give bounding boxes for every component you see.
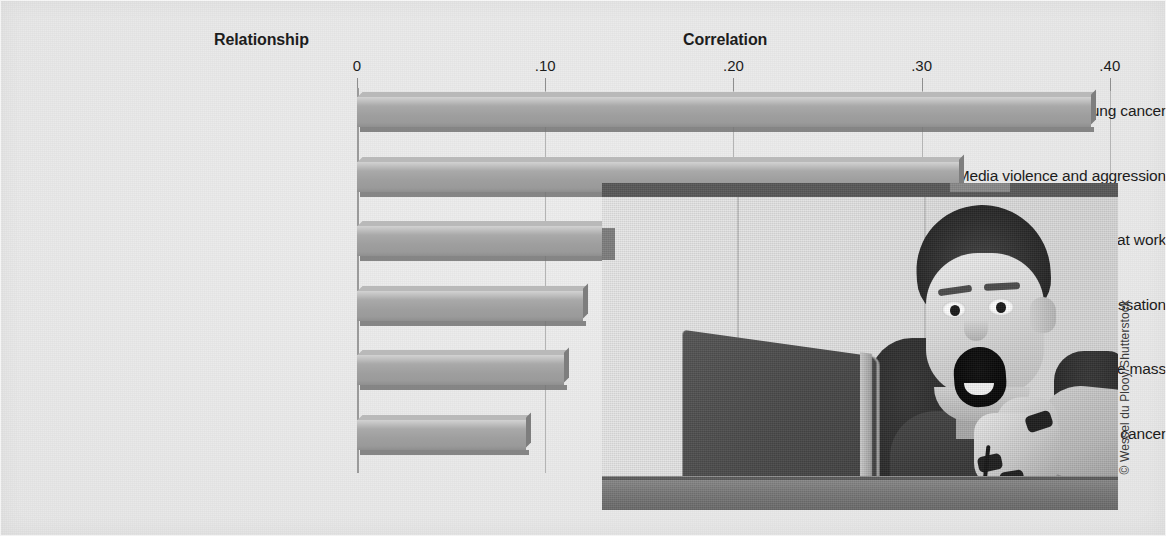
photo-wall-notch [602, 228, 615, 260]
bar-side-face [526, 412, 531, 447]
bar-shadow [360, 321, 586, 326]
photo-boy-playing-video-game [602, 183, 1118, 510]
bar [357, 420, 526, 450]
bar [357, 226, 602, 256]
x-tick-label-1: .10 [535, 57, 556, 74]
desk-surface [602, 476, 1118, 510]
bar-face [357, 291, 583, 321]
photo-credit: © Wessel du Plooy/Shutterstock [1118, 300, 1132, 474]
bar-top-face [358, 157, 965, 162]
correlation-bar-chart-figure: Relationship Correlation 0.10.20.30.40 S… [0, 0, 1166, 536]
bar [357, 97, 1091, 127]
photo-upper-band [602, 183, 1118, 197]
x-tick-label-4: .40 [1099, 57, 1120, 74]
x-tick-mark-3 [922, 78, 923, 91]
x-tick-label-2: .20 [723, 57, 744, 74]
x-tick-mark-4 [1110, 78, 1111, 91]
bar-top-face [358, 350, 570, 355]
boy-figure [878, 201, 1118, 510]
bar-side-face [564, 348, 569, 383]
bar-shadow [360, 127, 1094, 132]
x-tick-label-0: 0 [353, 57, 361, 74]
boy-pupil-right [996, 302, 1006, 313]
bar-shadow [360, 385, 567, 390]
bar-face [357, 97, 1091, 127]
bar-side-face [1091, 90, 1096, 125]
x-tick-mark-1 [545, 78, 546, 91]
photo-upper-band [950, 183, 1010, 192]
bar-shadow [360, 450, 529, 455]
bar [357, 355, 564, 385]
bar-top-face [358, 286, 589, 291]
desk-edge [602, 477, 1118, 480]
bar-shadow [360, 256, 605, 261]
bar-face [357, 226, 602, 256]
bar-face [357, 355, 564, 385]
bar-side-face [583, 283, 588, 318]
boy-pupil-left [950, 305, 960, 316]
boy-ear [1030, 297, 1056, 333]
bar-face [357, 420, 526, 450]
bar-top-face [358, 415, 532, 420]
bar-top-face [358, 221, 608, 226]
bar-top-face [358, 92, 1097, 97]
bar [357, 291, 583, 321]
axis-baseline [357, 88, 359, 473]
gridline-1 [545, 91, 546, 473]
x-tick-label-3: .30 [911, 57, 932, 74]
x-tick-mark-2 [733, 78, 734, 91]
